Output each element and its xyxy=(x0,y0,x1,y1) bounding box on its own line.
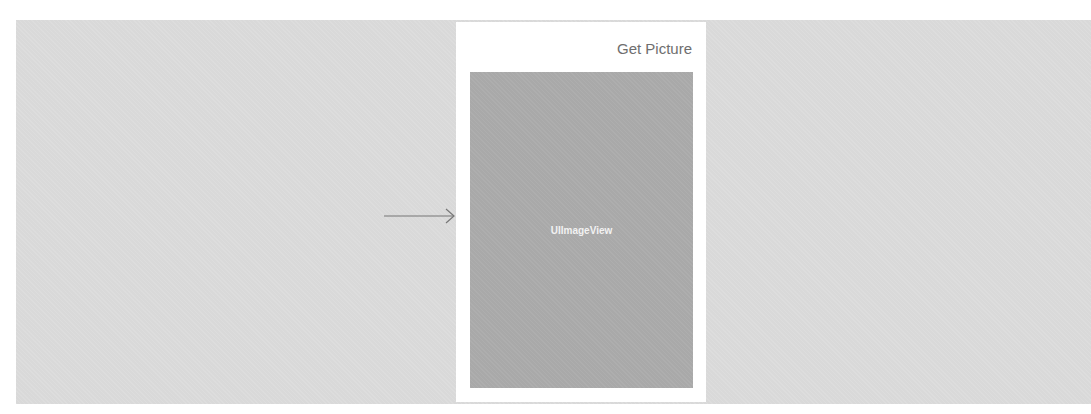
image-view-label: UIImageView xyxy=(551,225,613,236)
entry-point-arrow-icon xyxy=(384,206,456,226)
get-picture-button[interactable]: Get Picture xyxy=(617,40,692,57)
image-view[interactable]: UIImageView xyxy=(470,72,693,388)
view-controller-scene[interactable]: Get Picture UIImageView xyxy=(456,22,706,402)
